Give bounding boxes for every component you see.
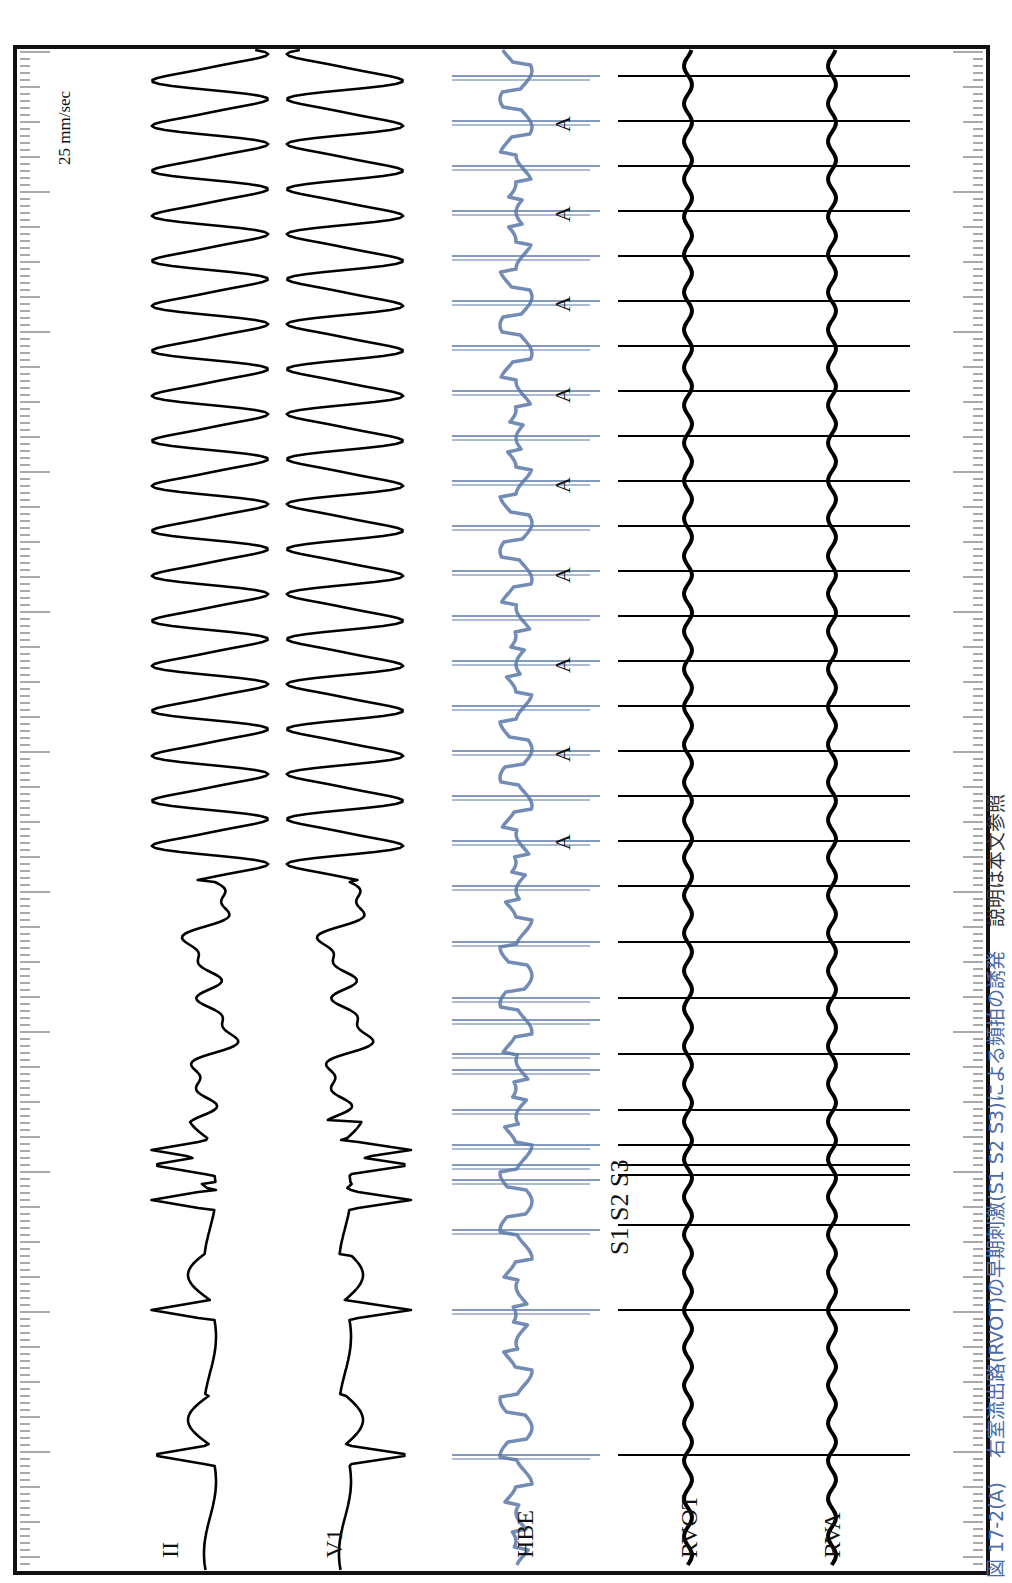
trace-lead-II	[152, 50, 269, 1570]
atrial-marker-a: A	[550, 746, 575, 762]
speed-label: 25 mm/sec	[55, 90, 74, 165]
ecg-figure: 25 mm/sec II V1 HBE RVOT RVA S1 S2 S3 AA…	[0, 0, 1012, 1583]
trace-RVOT	[618, 50, 910, 1565]
trace-HBE	[452, 50, 600, 1565]
lead-label-RVA: RVA	[819, 1512, 845, 1558]
caption-note: 説明は本文参照	[985, 794, 1007, 927]
stimulus-label-s1-s2-s3: S1 S2 S3	[605, 1160, 634, 1255]
atrial-marker-a: A	[550, 567, 575, 583]
lead-label-RVOT: RVOT	[676, 1494, 702, 1558]
trace-lead-V1	[287, 50, 411, 1570]
lead-label-V1: V1	[321, 1529, 347, 1558]
time-ruler-right	[953, 52, 983, 1564]
atrial-marker-a: A	[550, 206, 575, 222]
atrial-marker-a: A	[550, 387, 575, 403]
time-ruler-left	[20, 52, 50, 1564]
lead-label-II: II	[157, 1542, 183, 1558]
trace-RVA	[768, 50, 905, 1565]
atrial-marker-a: A	[550, 116, 575, 132]
caption-text: 右室流出路(RVOT)の早期刺激(S1 S2 S3)による頻拍の誘発	[985, 951, 1007, 1458]
atrial-marker-a: A	[550, 477, 575, 493]
ecg-svg: 25 mm/sec II V1 HBE RVOT RVA S1 S2 S3 AA…	[0, 0, 1012, 1583]
atrial-marker-a: A	[550, 657, 575, 673]
caption-number: 図 17-2(A)	[985, 1482, 1007, 1578]
lead-label-HBE: HBE	[512, 1510, 538, 1558]
atrial-markers: AAAAAAAAA	[550, 116, 575, 850]
atrial-marker-a: A	[550, 296, 575, 312]
atrial-marker-a: A	[550, 834, 575, 850]
